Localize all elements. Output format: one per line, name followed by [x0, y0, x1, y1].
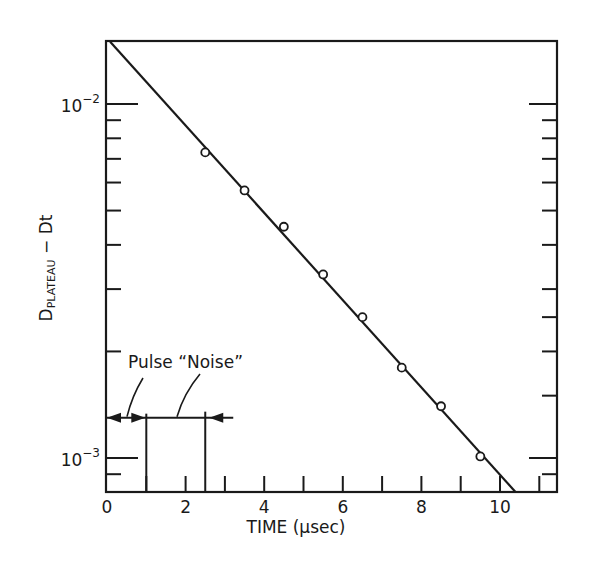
y-axis-tick-labels: 10−210−3: [61, 92, 100, 470]
data-point-marker: [201, 148, 209, 156]
x-tick-label: 10: [489, 497, 511, 517]
data-point-marker: [358, 313, 366, 321]
y-tick-exponent: −2: [82, 92, 100, 106]
arrow-left-icon: [107, 413, 121, 423]
plot-frame: [106, 41, 557, 492]
y-tick-base: 10: [61, 96, 83, 116]
data-point-marker: [280, 223, 288, 231]
data-point-marker: [437, 402, 445, 410]
x-axis-tick-labels: 0246810: [102, 497, 511, 517]
x-tick-label: 6: [337, 497, 348, 517]
fit-line: [110, 42, 516, 493]
y-title-sub: PLATEAU: [45, 259, 58, 308]
x-tick-label: 0: [102, 497, 113, 517]
y-tick-exponent: −3: [82, 446, 100, 460]
y-title-tail-sub: t: [36, 214, 56, 221]
pulse-leader-line: [127, 378, 143, 417]
arrow-left-icon: [209, 413, 223, 423]
y-title-tail: − D: [36, 221, 56, 259]
x-tick-label: 8: [416, 497, 427, 517]
arrow-right-icon: [131, 413, 145, 423]
pulse-noise-label: Pulse “Noise”: [128, 352, 243, 372]
fit-line-segment: [110, 42, 516, 493]
pulse-noise-annotation: [106, 374, 233, 492]
plot-border: [106, 41, 557, 492]
data-point-marker: [398, 364, 406, 372]
data-point-marker: [241, 186, 249, 194]
x-tick-label: 2: [180, 497, 191, 517]
y-title-main: D: [36, 308, 56, 321]
y-tick-label: 10−2: [61, 92, 100, 116]
data-point-marker: [476, 452, 484, 460]
data-point-marker: [319, 270, 327, 278]
y-axis-title: DPLATEAU − Dt: [36, 214, 58, 321]
x-axis-title: TIME (μsec): [246, 517, 346, 537]
chart: 0246810 10−210−3 TIME (μsec) DPLATEAU − …: [0, 0, 592, 571]
y-tick-label: 10−3: [61, 446, 100, 470]
noise-leader-line: [177, 374, 200, 417]
x-tick-label: 4: [259, 497, 270, 517]
data-points: [201, 148, 484, 460]
y-tick-base: 10: [61, 450, 83, 470]
